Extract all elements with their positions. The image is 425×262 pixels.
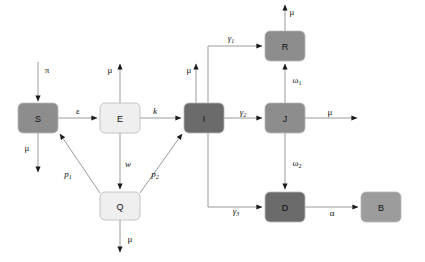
rate-label-gamma2-I-to-J: γ2 xyxy=(240,107,247,118)
rate-label-mu-outflow-S: μ xyxy=(25,143,30,153)
compartment-box-S xyxy=(18,103,58,133)
rate-label-w-E-to-Q: w xyxy=(125,159,131,169)
compartment-node-E[interactable]: E xyxy=(100,103,140,133)
rate-label-k-E-to-I: k xyxy=(153,106,158,116)
rate-symbol: μ xyxy=(328,107,333,117)
rate-subscript: 2 xyxy=(298,163,301,169)
rate-label-p1-Q-to-S: p1 xyxy=(63,169,72,180)
rate-label-mu-outflow-I: μ xyxy=(187,65,192,75)
rate-label-alpha-D-to-B: α xyxy=(330,208,335,218)
rate-symbol: ε xyxy=(76,106,80,116)
rate-label-gamma3-I-to-D: γ3 xyxy=(233,206,240,217)
compartment-nodes: SEQIRJDB xyxy=(18,31,401,222)
rate-symbol: μ xyxy=(290,7,295,17)
compartment-box-R xyxy=(265,31,305,61)
arrow-Q-to-S xyxy=(60,134,100,193)
rate-label-gamma1-I-to-R: γ1 xyxy=(228,33,235,44)
rate-label-mu-outflow-E: μ xyxy=(108,65,113,75)
rate-subscript: 1 xyxy=(69,174,72,180)
rate-symbol: μ xyxy=(128,234,133,244)
rate-symbol: γ xyxy=(240,107,244,117)
compartment-node-D[interactable]: D xyxy=(265,192,305,222)
rate-label-pi-inflow-S: π xyxy=(45,65,50,75)
rate-label-mu-outflow-J: μ xyxy=(328,107,333,117)
rate-symbol: ω xyxy=(293,75,299,85)
rate-label-mu-outflow-R: μ xyxy=(290,7,295,17)
compartment-node-B[interactable]: B xyxy=(361,192,401,222)
arrow-Q-to-I xyxy=(140,134,182,193)
compartment-box-D xyxy=(265,192,305,222)
rate-symbol: p xyxy=(63,169,69,179)
compartmental-flow-diagram: SEQIRJDB πμεμkwp1p2μμγ1γ2γ3μω1ω2μα xyxy=(0,0,425,262)
compartment-node-R[interactable]: R xyxy=(265,31,305,61)
compartment-box-J xyxy=(265,103,305,133)
rate-symbol: μ xyxy=(108,65,113,75)
compartment-box-I xyxy=(184,103,224,133)
compartment-node-J[interactable]: J xyxy=(265,103,305,133)
rate-subscript: 1 xyxy=(231,38,234,44)
rate-symbol: μ xyxy=(25,143,30,153)
rate-subscript: 3 xyxy=(235,211,239,217)
compartment-box-B xyxy=(361,192,401,222)
compartment-node-Q[interactable]: Q xyxy=(100,192,140,220)
compartment-box-E xyxy=(100,103,140,133)
rate-subscript: 2 xyxy=(156,174,159,180)
rate-label-omega1-J-to-R: ω1 xyxy=(293,75,302,86)
rate-subscript: 2 xyxy=(243,112,246,118)
rate-subscript: 1 xyxy=(298,80,301,86)
rate-symbol: μ xyxy=(187,65,192,75)
rate-symbol: k xyxy=(153,106,158,116)
compartment-box-Q xyxy=(100,192,140,220)
rate-symbol: ω xyxy=(293,158,299,168)
rate-label-mu-outflow-Q: μ xyxy=(128,234,133,244)
rate-symbol: w xyxy=(125,159,131,169)
compartment-node-I[interactable]: I xyxy=(184,103,224,133)
rate-label-omega2-J-to-D: ω2 xyxy=(293,158,302,169)
rate-symbol: α xyxy=(330,208,335,218)
rate-label-p2-Q-to-I: p2 xyxy=(150,169,159,180)
rate-label-epsilon-S-to-E: ε xyxy=(76,106,80,116)
rate-symbol: π xyxy=(45,65,50,75)
rate-symbol: γ xyxy=(228,33,232,43)
compartment-node-S[interactable]: S xyxy=(18,103,58,133)
